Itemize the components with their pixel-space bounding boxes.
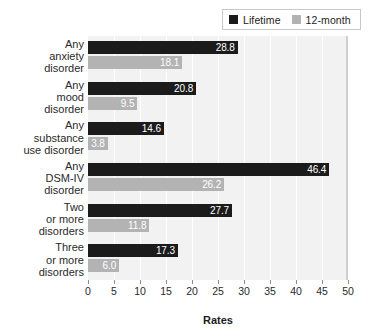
y-axis-label-line: Two (0, 201, 84, 213)
x-axis-tick-label: 30 (238, 285, 250, 297)
bar-12-month: 6.0 (88, 259, 119, 272)
bar-value-label: 14.6 (142, 123, 161, 134)
legend-swatch-lifetime (229, 15, 238, 24)
bar-group: 17.36.0 (88, 239, 346, 280)
y-axis-label-line: disorders (0, 266, 84, 278)
y-axis-label-line: or more (0, 213, 84, 225)
y-axis-label: Anyanxietydisorder (0, 38, 84, 75)
y-axis-labels: AnyanxietydisorderAnymooddisorderAnysubs… (0, 36, 84, 280)
y-axis-label: Threeor moredisorders (0, 241, 84, 278)
legend-label-lifetime: Lifetime (243, 14, 281, 26)
x-axis-tick-label: 15 (160, 285, 172, 297)
y-axis-label-line: disorder (0, 103, 84, 115)
bar-value-label: 3.8 (91, 138, 105, 149)
x-axis-tick (270, 280, 271, 284)
y-axis-label-line: anxiety (0, 50, 84, 62)
legend-entry-12-month: 12-month (292, 14, 351, 26)
y-axis-label-line: Any (0, 160, 84, 172)
bar-group: 46.426.2 (88, 158, 346, 199)
x-axis-tick (140, 280, 141, 284)
bar-lifetime: 17.3 (88, 244, 178, 257)
bar-group: 14.63.8 (88, 117, 346, 158)
bar-value-label: 9.5 (121, 98, 135, 109)
bar-group: 28.818.1 (88, 36, 346, 77)
bar-value-label: 46.4 (307, 164, 326, 175)
x-axis-tick-label: 25 (212, 285, 224, 297)
x-axis-title: Rates (88, 314, 348, 326)
bar-value-label: 6.0 (103, 260, 117, 271)
bar-value-label: 28.8 (216, 42, 235, 53)
x-axis-tick (348, 280, 349, 284)
y-axis-label-line: Any (0, 79, 84, 91)
x-axis-tick-label: 40 (290, 285, 302, 297)
bar-value-label: 11.8 (128, 220, 146, 231)
bar-12-month: 3.8 (88, 137, 108, 150)
y-axis-label: Anymooddisorder (0, 79, 84, 116)
legend-swatch-12-month (292, 15, 301, 24)
y-axis-label: AnyDSM-IVdisorder (0, 160, 84, 197)
x-axis-tick-label: 5 (111, 285, 117, 297)
bar-lifetime: 20.8 (88, 82, 196, 95)
bar-lifetime: 27.7 (88, 204, 232, 217)
x-axis-tick-label: 0 (85, 285, 91, 297)
x-axis-tick-label: 35 (264, 285, 276, 297)
y-axis-label-line: Three (0, 241, 84, 253)
x-axis: 05101520253035404550 (88, 280, 348, 300)
x-axis-tick (166, 280, 167, 284)
x-axis-tick-label: 45 (316, 285, 328, 297)
x-axis-tick (88, 280, 89, 284)
x-axis-tick-label: 20 (186, 285, 198, 297)
bar-value-label: 27.7 (210, 205, 229, 216)
y-axis-label-line: use disorder (0, 144, 84, 156)
plot-area: 28.818.120.89.514.63.846.426.227.711.817… (88, 36, 348, 280)
x-axis-tick (218, 280, 219, 284)
bar-12-month: 9.5 (88, 97, 137, 110)
y-axis-label-line: or more (0, 254, 84, 266)
bar-value-label: 18.1 (160, 57, 179, 68)
x-axis-tick (114, 280, 115, 284)
x-axis-tick-label: 10 (134, 285, 146, 297)
bar-group: 20.89.5 (88, 77, 346, 118)
bar-lifetime: 28.8 (88, 41, 238, 54)
bar-value-label: 20.8 (174, 83, 193, 94)
bar-12-month: 11.8 (88, 219, 149, 232)
y-axis-label-line: disorders (0, 225, 84, 237)
x-axis-tick (296, 280, 297, 284)
bar-value-label: 26.2 (202, 179, 221, 190)
y-axis-label-line: disorder (0, 62, 84, 74)
bar-lifetime: 46.4 (88, 163, 329, 176)
chart-legend: Lifetime 12-month (222, 9, 361, 30)
x-axis-tick-label: 50 (342, 285, 354, 297)
plot-inner: 28.818.120.89.514.63.846.426.227.711.817… (88, 36, 346, 280)
y-axis-label-line: DSM-IV (0, 172, 84, 184)
bar-value-label: 17.3 (156, 245, 175, 256)
bar-12-month: 26.2 (88, 178, 224, 191)
x-axis-tick (244, 280, 245, 284)
y-axis-label-line: mood (0, 91, 84, 103)
legend-entry-lifetime: Lifetime (229, 14, 281, 26)
x-axis-tick (322, 280, 323, 284)
y-axis-label-line: substance (0, 132, 84, 144)
bar-12-month: 18.1 (88, 56, 182, 69)
y-axis-label-line: Any (0, 119, 84, 131)
x-axis-tick (192, 280, 193, 284)
bar-group: 27.711.8 (88, 199, 346, 240)
legend-label-12-month: 12-month (306, 14, 351, 26)
y-axis-label-line: Any (0, 38, 84, 50)
y-axis-label: Twoor moredisorders (0, 201, 84, 238)
y-axis-label: Anysubstanceuse disorder (0, 119, 84, 156)
y-axis-label-line: disorder (0, 184, 84, 196)
bar-lifetime: 14.6 (88, 122, 164, 135)
